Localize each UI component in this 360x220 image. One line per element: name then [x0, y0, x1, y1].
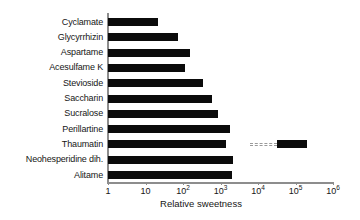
x-tick-mark	[108, 182, 109, 185]
bar-row	[108, 33, 333, 41]
category-label: Aspartame	[0, 48, 103, 57]
x-axis-title: Relative sweetness	[0, 198, 360, 209]
x-tick-mark	[183, 182, 184, 185]
x-tick-label: 10	[140, 186, 150, 196]
bar	[108, 18, 158, 26]
bar	[108, 49, 190, 57]
bar-row	[108, 49, 333, 57]
category-label: Stevioside	[0, 79, 103, 88]
x-tick-label: 104	[251, 186, 265, 196]
x-tick-label: 103	[214, 186, 228, 196]
x-tick-label: 102	[176, 186, 190, 196]
category-label: Neohesperidine dih.	[0, 155, 103, 164]
x-tick-mark	[296, 182, 297, 185]
relative-sweetness-chart: CyclamateGlycyrrhizinAspartameAcesulfame…	[0, 0, 360, 220]
x-tick-label: 106	[326, 186, 340, 196]
bar-axis-break	[250, 143, 278, 147]
category-axis-labels: CyclamateGlycyrrhizinAspartameAcesulfame…	[0, 14, 103, 182]
x-tick-mark	[333, 182, 334, 185]
bar-row	[108, 64, 333, 72]
bar-row	[108, 156, 333, 164]
bar	[108, 79, 203, 87]
bar	[108, 171, 232, 179]
category-label: Sucralose	[0, 109, 103, 118]
category-label: Thaumatin	[0, 140, 103, 149]
bar	[108, 110, 218, 118]
x-tick-mark	[221, 182, 222, 185]
category-label: Alitame	[0, 171, 103, 180]
bar-row	[108, 95, 333, 103]
x-tick-mark	[146, 182, 147, 185]
x-tick-label: 1	[105, 186, 110, 196]
bar	[108, 64, 185, 72]
bar-row	[108, 110, 333, 118]
bar-row	[108, 125, 333, 133]
category-label: Saccharin	[0, 94, 103, 103]
bar-row	[108, 171, 333, 179]
category-label: Glycyrrhizin	[0, 33, 103, 42]
x-tick-label: 105	[289, 186, 303, 196]
category-label: Cyclamate	[0, 18, 103, 27]
bar	[108, 156, 233, 164]
bar-row	[108, 79, 333, 87]
bar	[108, 95, 212, 103]
x-axis-title-text: Relative sweetness	[160, 198, 242, 209]
x-tick-mark	[258, 182, 259, 185]
bar	[108, 125, 230, 133]
plot-area	[108, 14, 333, 182]
bar-continuation	[277, 140, 306, 148]
bar-row	[108, 140, 333, 148]
category-label: Perillartine	[0, 125, 103, 134]
bar	[108, 140, 226, 148]
bar	[108, 33, 178, 41]
bar-row	[108, 18, 333, 26]
category-label: Acesulfame K	[0, 63, 103, 72]
